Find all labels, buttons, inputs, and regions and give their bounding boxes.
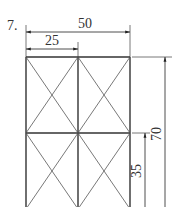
- dimension-lines: [26, 32, 165, 207]
- braced-frame-drawing: 7. 50 25 70 35: [0, 0, 180, 207]
- dim-70-label: 70: [149, 127, 164, 141]
- dim-25-label: 25: [45, 33, 59, 48]
- dim-50-label: 50: [78, 16, 92, 31]
- problem-number: 7.: [7, 18, 18, 33]
- dim-35-label: 35: [129, 164, 144, 178]
